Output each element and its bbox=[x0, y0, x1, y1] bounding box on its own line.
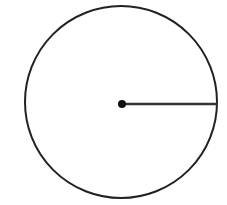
center-point bbox=[118, 100, 126, 108]
circle-diagram bbox=[0, 0, 227, 205]
